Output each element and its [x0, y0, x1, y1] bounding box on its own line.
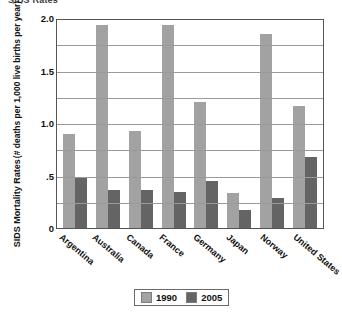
bar-united-states-2005 [305, 157, 317, 228]
gridline [57, 203, 323, 204]
bar-norway-1990 [260, 34, 272, 228]
x-label-cell: Argentina [56, 230, 90, 282]
x-axis-label: Japan [225, 232, 251, 256]
gridline [57, 124, 323, 125]
bar-germany-1990 [194, 102, 206, 228]
bar-canada-1990 [129, 131, 141, 228]
legend-item-1990[interactable]: 1990 [141, 292, 177, 303]
y-tick-label: 0 [28, 224, 54, 234]
bar-france-1990 [162, 25, 174, 228]
bar-australia-2005 [108, 190, 120, 228]
y-axis-tick-labels: 0.51.01.52.0 [26, 0, 54, 316]
bar-australia-1990 [96, 25, 108, 228]
y-axis-title-line2: (# deaths per 1,000 live births per year… [12, 1, 22, 158]
x-label-cell: Canada [123, 230, 157, 282]
x-label-cell: United States [291, 230, 325, 282]
gridline [57, 177, 323, 178]
x-axis-label: Australia [91, 232, 127, 264]
x-label-cell: Norway [257, 230, 291, 282]
bar-argentina-1990 [63, 134, 75, 229]
bar-japan-2005 [239, 210, 251, 228]
x-label-cell: Australia [90, 230, 124, 282]
bar-france-2005 [174, 192, 186, 228]
plot-area [56, 19, 324, 229]
x-axis-category-labels: ArgentinaAustraliaCanadaFranceGermanyJap… [56, 230, 324, 282]
x-axis-label: Norway [258, 232, 289, 261]
legend-item-2005[interactable]: 2005 [186, 292, 222, 303]
x-axis-label: France [158, 232, 187, 259]
x-label-cell: Japan [224, 230, 258, 282]
x-label-cell: Germany [190, 230, 224, 282]
y-axis-title-line1: SIDS Mortality Rates [12, 159, 22, 247]
gridline [57, 72, 323, 73]
gridline [57, 150, 323, 151]
x-axis-label: Canada [124, 232, 155, 261]
x-axis-label: United States [292, 232, 342, 277]
bar-japan-1990 [227, 193, 239, 228]
y-tick-label: 1.5 [28, 67, 54, 77]
chart-legend: 19902005 [134, 289, 229, 306]
bar-canada-2005 [141, 190, 153, 228]
x-axis-label: Germany [191, 232, 227, 265]
y-tick-label: 1.0 [28, 119, 54, 129]
gridline [57, 45, 323, 46]
legend-label: 1990 [156, 293, 177, 303]
legend-swatch-icon [186, 292, 197, 303]
bar-germany-2005 [206, 181, 218, 228]
y-tick-label: 2.0 [28, 14, 54, 24]
x-label-cell: France [157, 230, 191, 282]
legend-label: 2005 [201, 293, 222, 303]
legend-swatch-icon [141, 292, 152, 303]
gridline [57, 98, 323, 99]
y-tick-label: .5 [28, 172, 54, 182]
